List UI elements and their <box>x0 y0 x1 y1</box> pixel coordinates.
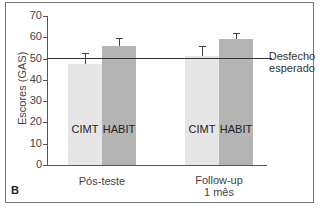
bar-label: CIMT <box>68 123 102 135</box>
y-tick <box>43 122 47 123</box>
error-bar-cap <box>116 38 123 39</box>
y-tick-label: 60 <box>20 30 42 42</box>
error-bar <box>119 38 120 45</box>
bar-label: CIMT <box>185 123 219 135</box>
chart-frame <box>5 2 314 203</box>
error-bar <box>85 53 86 64</box>
y-tick-label: 0 <box>20 158 42 170</box>
y-tick-label: 70 <box>20 9 42 21</box>
panel-letter: B <box>11 184 19 196</box>
y-tick-label: 10 <box>20 137 42 149</box>
y-tick <box>43 144 47 145</box>
bar-label: HABIT <box>102 123 136 135</box>
reference-line <box>47 58 272 59</box>
error-bar-cap <box>233 33 240 34</box>
y-tick <box>43 165 47 166</box>
bar-habit <box>102 46 136 165</box>
bar-cimt <box>68 64 102 165</box>
x-category-label: Follow-up 1 mês <box>175 174 263 198</box>
y-tick-label: 50 <box>20 52 42 64</box>
y-tick <box>43 59 47 60</box>
bar-label: HABIT <box>219 123 253 135</box>
y-tick-label: 40 <box>20 73 42 85</box>
y-tick-label: 30 <box>20 94 42 106</box>
y-tick-label: 20 <box>20 115 42 127</box>
x-category-label: Pós-teste <box>58 175 146 187</box>
error-bar-cap <box>82 53 89 54</box>
reference-line-label: Desfecho esperado <box>268 50 316 74</box>
x-axis-line <box>47 165 267 166</box>
y-axis-line <box>47 16 48 165</box>
error-bar-cap <box>199 46 206 47</box>
y-tick <box>43 16 47 17</box>
error-bar <box>202 46 203 57</box>
bar-cimt <box>185 56 219 165</box>
y-tick <box>43 101 47 102</box>
y-tick <box>43 37 47 38</box>
y-tick <box>43 80 47 81</box>
